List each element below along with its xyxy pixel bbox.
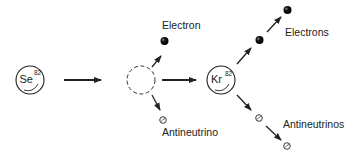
antineutrino-arrow-1	[152, 95, 160, 110]
intermediate-nucleus	[127, 66, 155, 94]
antineutrino-label: Antineutrino	[162, 126, 218, 138]
antineutrino-icon	[284, 143, 291, 150]
antineutrinos-arrow-2	[266, 126, 281, 140]
se82-nucleus: Se 82	[16, 66, 44, 94]
double-beta-decay-diagram: Se 82 Electron Antineutrino Kr 82 Electr…	[0, 0, 358, 158]
electrons-arrow-1	[237, 48, 251, 64]
electron-arrow-1	[152, 56, 161, 67]
kr82-nucleus: Kr 82	[207, 66, 235, 94]
electron-icon	[161, 37, 169, 45]
electron-label: Electron	[162, 19, 201, 31]
electrons-arrow-2	[267, 17, 281, 32]
electron-icon	[284, 6, 292, 14]
kr-symbol: Kr	[211, 73, 222, 85]
spin-arc-icon	[215, 84, 229, 91]
electron-icon	[256, 36, 264, 44]
antineutrino-icon	[256, 115, 263, 122]
electrons-label: Electrons	[285, 26, 329, 38]
spin-arc-icon	[24, 84, 38, 91]
antineutrinos-label: Antineutrinos	[283, 118, 344, 130]
kr-mass-number: 82	[225, 70, 233, 77]
se-symbol: Se	[20, 73, 33, 85]
antineutrino-icon	[160, 117, 167, 124]
se-mass-number: 82	[34, 69, 42, 76]
antineutrinos-arrow-1	[237, 95, 251, 110]
